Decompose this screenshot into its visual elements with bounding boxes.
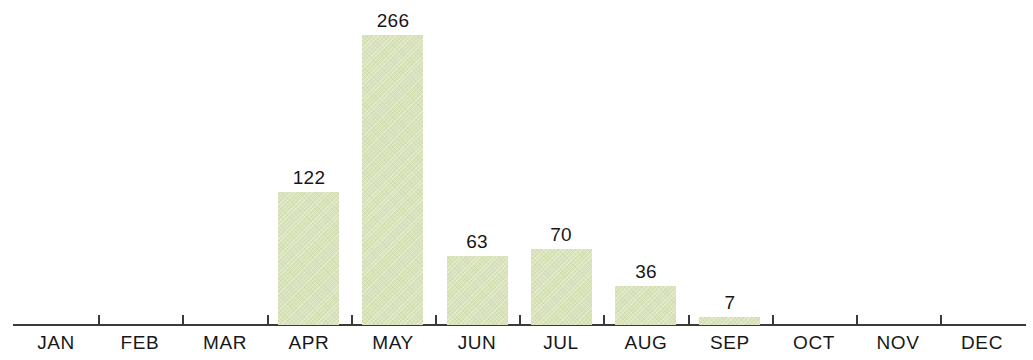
x-axis-tick	[267, 315, 269, 325]
x-axis-label-nov: NOV	[856, 332, 940, 354]
x-axis-label-aug: AUG	[604, 332, 688, 354]
bar-apr[interactable]	[278, 192, 339, 325]
bar-value-label-may: 266	[353, 11, 433, 30]
x-axis-label-mar: MAR	[183, 332, 267, 354]
bar-value-label-jul: 70	[521, 225, 601, 244]
x-axis-label-jun: JUN	[435, 332, 519, 354]
x-axis-tick	[98, 315, 100, 325]
bar-value-label-jun: 63	[437, 232, 517, 251]
x-axis-tick	[435, 315, 437, 325]
x-axis-tick	[688, 315, 690, 325]
x-axis-label-jul: JUL	[519, 332, 603, 354]
x-axis-tick	[351, 315, 353, 325]
x-axis-label-feb: FEB	[98, 332, 182, 354]
x-axis-tick	[772, 315, 774, 325]
x-axis-label-dec: DEC	[940, 332, 1024, 354]
plot-area: JANFEBMAR122APR266MAY63JUN70JUL36AUG7SEP…	[0, 0, 1033, 360]
bar-value-label-apr: 122	[269, 168, 349, 187]
x-axis-tick	[519, 315, 521, 325]
bar-aug[interactable]	[615, 286, 676, 325]
x-axis-tick	[940, 315, 942, 325]
x-axis-label-apr: APR	[267, 332, 351, 354]
x-axis-label-sep: SEP	[688, 332, 772, 354]
x-axis-label-jan: JAN	[14, 332, 98, 354]
x-axis-tick	[603, 315, 605, 325]
x-axis-tick	[856, 315, 858, 325]
bar-value-label-sep: 7	[690, 293, 770, 312]
bar-may[interactable]	[362, 35, 423, 325]
x-axis-tick	[182, 315, 184, 325]
bar-chart: JANFEBMAR122APR266MAY63JUN70JUL36AUG7SEP…	[0, 0, 1033, 360]
bar-sep[interactable]	[699, 317, 760, 325]
bar-jul[interactable]	[531, 249, 592, 325]
x-axis-label-oct: OCT	[772, 332, 856, 354]
bar-jun[interactable]	[447, 256, 508, 325]
bar-value-label-aug: 36	[606, 262, 686, 281]
x-axis-label-may: MAY	[351, 332, 435, 354]
